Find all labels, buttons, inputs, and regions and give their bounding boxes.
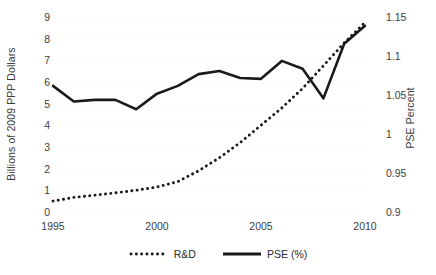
- legend-item-pse[interactable]: PSE (%): [222, 248, 307, 260]
- chart-legend: R&D PSE (%): [0, 248, 436, 260]
- x-axis-tick-label: 2005: [231, 221, 291, 232]
- legend-label-rnd: R&D: [174, 248, 196, 260]
- legend-item-rnd[interactable]: R&D: [129, 248, 196, 260]
- legend-swatch-solid-icon: [222, 250, 262, 258]
- series-line-rnd: [53, 22, 365, 201]
- series-line-pse: [53, 26, 365, 109]
- x-axis-tick-label: 1995: [23, 221, 83, 232]
- chart-container: Billions of 2009 PPP Dollars PSE Percent…: [0, 0, 436, 275]
- x-axis-tick-label: 2010: [335, 221, 395, 232]
- plot-area: [53, 18, 365, 213]
- plot-svg: [53, 18, 365, 213]
- gridlines: [53, 18, 365, 213]
- x-axis-tick-label: 2000: [127, 221, 187, 232]
- legend-swatch-dotted-icon: [129, 250, 169, 258]
- legend-label-pse: PSE (%): [267, 248, 307, 260]
